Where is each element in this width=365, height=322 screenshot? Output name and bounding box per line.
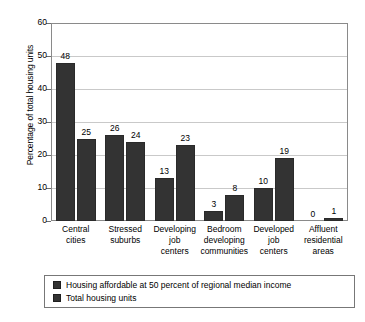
x-axis-label: Affluentresidentialareas [293,224,355,257]
bar-value-label: 24 [123,131,148,140]
bar [176,145,195,221]
y-axis-tick-label: 50 [7,51,47,60]
bar-value-label: 23 [173,134,198,143]
bar-value-label: 1 [321,207,346,216]
bars-layer: 48252624132338101901 [51,23,348,221]
legend-label: Total housing units [66,293,136,303]
x-axis-label-line: areas [293,246,355,257]
bar [225,195,244,221]
bar-value-label: 13 [152,167,177,176]
y-axis-title: Percentage of total housing units [25,5,35,205]
bar [155,178,174,221]
y-axis-tick-label: 0 [7,216,47,225]
legend-swatch-icon [53,294,61,302]
y-axis-tick-label: 40 [7,84,47,93]
legend-swatch-icon [53,281,61,289]
y-axis-tick-label: 60 [7,18,47,27]
bar [254,188,273,221]
x-axis-label-line: Affluent [293,224,355,235]
bar [56,63,75,221]
bar [204,211,223,221]
bar-value-label: 10 [251,177,276,186]
bar-value-label: 19 [272,147,297,156]
bar [275,158,294,221]
legend-item: Total housing units [53,293,136,303]
bar-value-label: 3 [201,200,226,209]
bar [105,135,124,221]
bar-value-label: 8 [222,184,247,193]
x-axis-labels: CentralcitiesStressedsuburbsDevelopingjo… [51,224,348,270]
legend-item: Housing affordable at 50 percent of regi… [53,280,291,290]
bar-chart: Percentage of total housing units 010203… [0,0,365,322]
bar [77,139,96,222]
x-axis-label-line: residential [293,235,355,246]
legend: Housing affordable at 50 percent of regi… [44,275,355,308]
bar-value-label: 25 [74,128,99,137]
y-axis-tick-label: 30 [7,117,47,126]
legend-label: Housing affordable at 50 percent of regi… [66,280,291,290]
bar-value-label: 48 [53,52,78,61]
y-axis-tick-label: 10 [7,183,47,192]
bar [324,218,343,221]
bar [126,142,145,221]
y-axis-tick-label: 20 [7,150,47,159]
